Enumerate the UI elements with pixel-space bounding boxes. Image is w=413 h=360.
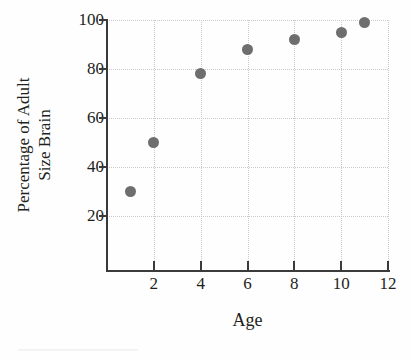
gridline-horizontal — [107, 167, 388, 168]
x-axis-tick-label: 4 — [181, 275, 221, 293]
x-axis-tick-mark — [387, 261, 389, 271]
data-point — [148, 137, 159, 148]
y-axis-title: Percentage of Adult Size Brain — [0, 0, 66, 290]
y-axis-title-line-2: Size Brain — [33, 77, 54, 212]
y-axis-tick-mark — [99, 215, 108, 217]
gridline-vertical — [341, 20, 342, 265]
data-point — [336, 27, 347, 38]
y-axis-tick-label: 100 — [64, 11, 104, 28]
y-axis-tick-label: 60 — [64, 109, 104, 126]
gridline-vertical — [201, 20, 202, 265]
y-axis-tick-labels: 20406080100 — [60, 0, 104, 290]
y-axis-tick-mark — [99, 117, 108, 119]
x-axis-tick-label: 6 — [228, 275, 268, 293]
data-point — [359, 17, 370, 28]
gridline-horizontal — [107, 118, 388, 119]
data-point — [289, 34, 300, 45]
y-axis-tick-label: 80 — [64, 60, 104, 77]
gridline-vertical — [248, 20, 249, 265]
y-axis-line — [106, 19, 108, 271]
y-axis-tick-mark — [99, 68, 108, 70]
gridline-horizontal — [107, 69, 388, 70]
x-axis-tick-mark — [247, 261, 249, 271]
x-axis-tick-label: 8 — [274, 275, 314, 293]
x-axis-tick-mark — [153, 261, 155, 271]
y-axis-title-line-1: Percentage of Adult — [12, 77, 33, 212]
x-axis-tick-mark — [200, 261, 202, 271]
scan-artifact — [18, 349, 138, 351]
x-axis-tick-mark — [340, 261, 342, 271]
gridline-horizontal — [107, 216, 388, 217]
gridline-vertical — [294, 20, 295, 265]
plot-area — [107, 20, 388, 265]
gridline-vertical — [388, 20, 389, 265]
scatter-chart-figure: Percentage of Adult Size Brain 204060801… — [0, 0, 413, 360]
gridline-horizontal — [107, 20, 388, 21]
x-axis-tick-label: 2 — [134, 275, 174, 293]
y-axis-tick-label: 40 — [64, 158, 104, 175]
x-axis-title: Age — [107, 310, 388, 331]
data-point — [195, 68, 206, 79]
y-axis-tick-mark — [99, 19, 108, 21]
x-axis-tick-mark — [293, 261, 295, 271]
data-point — [125, 186, 136, 197]
y-axis-tick-label: 20 — [64, 207, 104, 224]
x-axis-tick-label: 10 — [321, 275, 361, 293]
x-axis-tick-label: 12 — [368, 275, 408, 293]
data-point — [242, 44, 253, 55]
y-axis-tick-mark — [99, 166, 108, 168]
